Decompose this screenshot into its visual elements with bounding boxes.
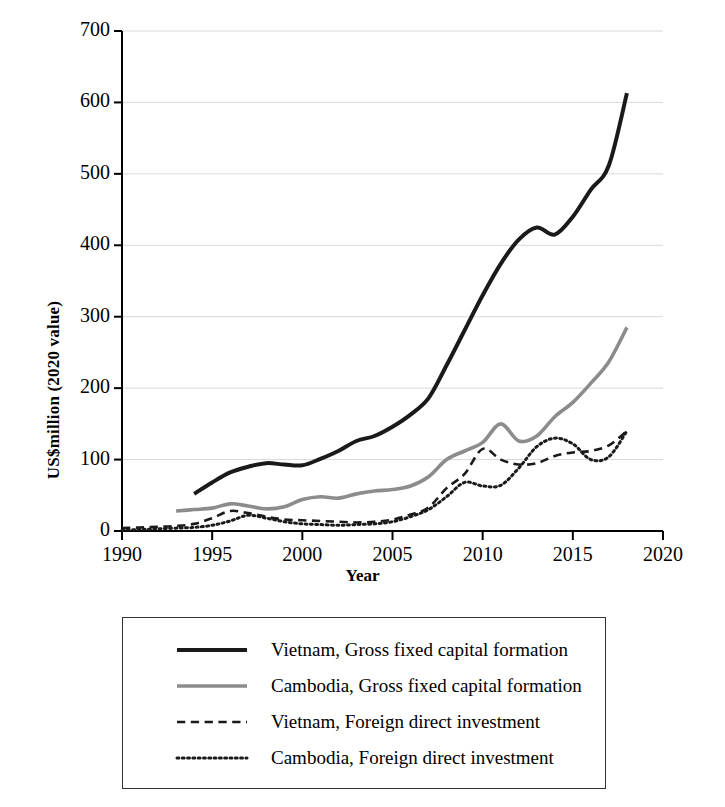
y-tick-label: 500 <box>50 161 110 184</box>
series-line-3 <box>122 431 627 528</box>
chart-figure: US$million (2020 value) Year 01002003004… <box>0 0 725 807</box>
x-tick-label: 1995 <box>177 543 247 566</box>
legend-item: Cambodia, Foreign direct investment <box>123 740 605 776</box>
x-axis-ticks <box>122 531 663 540</box>
series-line-4 <box>122 431 627 530</box>
y-tick-label: 700 <box>50 18 110 41</box>
y-tick-label: 100 <box>50 447 110 470</box>
x-tick-label: 2005 <box>358 543 428 566</box>
legend-item-label: Vietnam, Foreign direct investment <box>271 711 540 733</box>
x-tick-label: 2010 <box>448 543 518 566</box>
x-tick-label: 2020 <box>628 543 698 566</box>
y-tick-label: 300 <box>50 304 110 327</box>
y-axis-ticks <box>114 31 122 531</box>
series-line-1 <box>194 93 627 494</box>
solid-black-line-swatch <box>175 643 249 657</box>
x-tick-label: 1990 <box>87 543 157 566</box>
x-tick-label: 2015 <box>538 543 608 566</box>
legend-item-label: Vietnam, Gross fixed capital formation <box>271 639 568 661</box>
legend-item: Cambodia, Gross fixed capital formation <box>123 668 605 704</box>
y-tick-label: 0 <box>50 518 110 541</box>
y-tick-label: 600 <box>50 89 110 112</box>
legend-item-label: Cambodia, Foreign direct investment <box>271 747 554 769</box>
legend-item: Vietnam, Gross fixed capital formation <box>123 632 605 668</box>
x-axis-label: Year <box>0 566 725 586</box>
solid-gray-line-swatch <box>175 679 249 693</box>
y-tick-label: 400 <box>50 232 110 255</box>
chart-legend: Vietnam, Gross fixed capital formationCa… <box>122 617 606 789</box>
x-tick-label: 2000 <box>267 543 337 566</box>
dotted-black-line-swatch <box>175 751 249 765</box>
legend-item-label: Cambodia, Gross fixed capital formation <box>271 675 582 697</box>
y-tick-label: 200 <box>50 375 110 398</box>
data-series-group <box>122 93 627 530</box>
legend-item: Vietnam, Foreign direct investment <box>123 704 605 740</box>
dashed-black-line-swatch <box>175 715 249 729</box>
